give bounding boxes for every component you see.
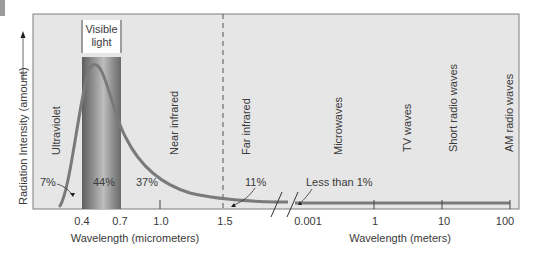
band-label-ultraviolet: Ultraviolet (50, 106, 62, 155)
tick-1.5: 1.5 (217, 215, 232, 227)
visible-light-label-line1: Visible (85, 23, 117, 35)
visible-light-label-line2: light (91, 36, 111, 48)
x-axis-label-micrometers: Wavelength (micrometers) (71, 232, 200, 244)
tick-1.0: 1.0 (153, 215, 168, 227)
percent-rest: Less than 1% (306, 176, 373, 188)
radiation-spectrum-diagram: Visible light Ultraviolet Near infrared … (0, 0, 537, 259)
tick-100: 100 (496, 215, 514, 227)
band-label-am-radio: AM radio waves (503, 73, 515, 152)
percent-near-infrared: 37% (136, 176, 158, 188)
tick-0.7: 0.7 (112, 215, 127, 227)
x-axis-label-meters: Wavelength (meters) (349, 232, 451, 244)
tick-0.001: 0.001 (294, 215, 322, 227)
band-label-short-radio: Short radio waves (447, 63, 459, 152)
percent-visible: 44% (93, 176, 115, 188)
percent-uv: 7% (40, 176, 56, 188)
band-label-near-infrared: Near infrared (168, 91, 180, 155)
percent-far-infrared: 11% (245, 176, 266, 188)
band-label-far-infrared: Far infrared (240, 98, 252, 155)
band-label-tv-waves: TV waves (401, 103, 413, 152)
y-axis-label: Radiation Intensity (amount) (17, 67, 29, 205)
tick-10: 10 (438, 215, 450, 227)
y-axis-arrow-icon (21, 31, 26, 38)
tick-1: 1 (372, 215, 378, 227)
band-label-microwaves: Microwaves (332, 96, 344, 155)
tick-0.4: 0.4 (74, 215, 89, 227)
